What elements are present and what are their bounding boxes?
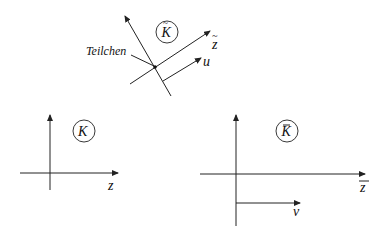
z-tilde-accent: ~ (212, 30, 218, 41)
z-bar-axis-label: z (359, 180, 366, 195)
frame-k-bar-letter: K (281, 124, 292, 139)
reference-frames-diagram: K ~ Teilchen z ~ u K z K z v (0, 0, 383, 237)
v-label: v (293, 204, 300, 219)
frame-k-letter: K (77, 124, 88, 139)
u-velocity-arrow (163, 58, 201, 81)
z-axis-label: z (107, 178, 114, 193)
particle-label: Teilchen (86, 44, 126, 58)
bottom-left-frame: K z (20, 115, 118, 193)
u-label: u (203, 54, 210, 69)
bottom-right-frame: K z v (200, 115, 369, 226)
frame-k-tilde-accent: ~ (163, 18, 168, 28)
top-frame: K ~ Teilchen z ~ u (86, 16, 218, 96)
